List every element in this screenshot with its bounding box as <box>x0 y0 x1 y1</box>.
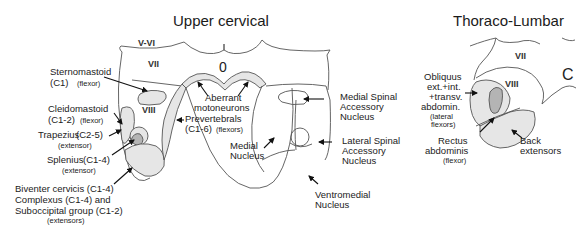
ventromedial-boundary <box>262 150 295 160</box>
arrow-ventromedial <box>309 176 318 184</box>
central-canal-icon: C <box>562 66 574 83</box>
label-medial-nucleus: Medial Nucleus <box>230 140 265 161</box>
svg-text:Trapezius: Trapezius <box>38 129 80 140</box>
svg-text:Nucleus: Nucleus <box>340 111 375 122</box>
svg-text:(C1-4): (C1-4) <box>83 154 110 165</box>
arrow-biventer <box>114 168 132 184</box>
svg-text:(flexor): (flexor) <box>443 156 467 165</box>
thoraco-lumbar-outline-top <box>470 38 575 46</box>
svg-text:(C1-6): (C1-6) <box>185 123 212 134</box>
label-back-extensors: Back extensors <box>520 135 561 156</box>
svg-text:Nucleus: Nucleus <box>230 150 265 161</box>
arrow-sternomastoid <box>104 77 147 91</box>
lamina-label-viii: VIII <box>142 105 156 115</box>
svg-text:(C2-5): (C2-5) <box>76 129 103 140</box>
lamina-boundary-right <box>266 84 330 160</box>
svg-text:Splenius: Splenius <box>47 154 84 165</box>
spinal-cord-motor-pool-diagram: Upper cervical V-VI VII VIII 0 <box>0 0 583 228</box>
svg-text:(flexor): (flexor) <box>80 116 104 125</box>
svg-text:(extensors): (extensors) <box>47 216 85 225</box>
label-obliquus: Obliquus ext.+int. +transv. abdomin. (la… <box>421 71 462 129</box>
svg-text:Cleidomastoid: Cleidomastoid <box>48 103 108 114</box>
label-medial-spinal-accessory-nucleus: Medial Spinal Accessory Nucleus <box>340 91 397 122</box>
svg-text:Sternomastoid: Sternomastoid <box>50 66 111 77</box>
arrow-medial-nucleus <box>264 138 274 148</box>
lamina-label-v-vi: V-VI <box>138 38 155 48</box>
panel-title-upper-cervical: Upper cervical <box>173 12 269 29</box>
svg-text:flexors): flexors) <box>431 120 456 129</box>
lamina-label-vii: VII <box>515 51 526 61</box>
label-aberrant-motoneurons: Aberrant motoneurons <box>194 92 250 113</box>
svg-text:Biventer cervicis (C1-4): Biventer cervicis (C1-4) <box>15 183 114 194</box>
label-splenius: Splenius (C1-4) (extensor) <box>47 154 110 175</box>
label-cleidomastoid: Cleidomastoid (C1-2) (flexor) <box>48 103 108 125</box>
upper-cervical-panel: Upper cervical V-VI VII VIII 0 <box>15 12 400 225</box>
lateral-edge <box>542 86 576 104</box>
svg-text:(flexor): (flexor) <box>77 79 101 88</box>
label-biventer-complexus-suboccipital: Biventer cervicis (C1-4) Complexus (C1-4… <box>15 183 123 225</box>
svg-text:Nucleus: Nucleus <box>342 155 377 166</box>
svg-text:Complexus (C1-4) and: Complexus (C1-4) and <box>15 194 111 205</box>
svg-text:motoneurons: motoneurons <box>194 102 250 113</box>
svg-text:Suboccipital group (C1-2): Suboccipital group (C1-2) <box>15 205 123 216</box>
panel-title-thoraco-lumbar: Thoraco-Lumbar <box>453 12 564 29</box>
lamina-label-viii: VIII <box>505 79 519 89</box>
lamina-boundary-left <box>132 80 182 86</box>
svg-text:(C1): (C1) <box>50 77 68 88</box>
thoraco-lumbar-outline-left <box>474 38 496 80</box>
svg-text:Nucleus: Nucleus <box>315 199 350 210</box>
arrow-trapezius <box>109 130 121 136</box>
svg-text:(extensor): (extensor) <box>58 141 92 150</box>
label-trapezius: Trapezius (C2-5) (extensor) <box>38 129 103 150</box>
svg-text:extensors: extensors <box>520 145 561 156</box>
label-lateral-spinal-accessory-nucleus: Lateral Spinal Accessory Nucleus <box>342 135 400 166</box>
lamina-label-vii: VII <box>148 59 159 69</box>
svg-text:(C1-2): (C1-2) <box>48 114 75 125</box>
label-sternomastoid: Sternomastoid (C1) (flexor) <box>50 66 111 88</box>
label-rectus-abdominis: Rectus abdominis (flexor) <box>425 135 469 165</box>
central-canal-icon: 0 <box>219 59 227 75</box>
svg-text:abdominis: abdominis <box>425 145 469 156</box>
svg-text:(flexors): (flexors) <box>216 125 244 134</box>
sternomastoid-pool <box>138 90 166 105</box>
label-prevertebrals: Prevertebrals (C1-6) (flexors) <box>185 113 244 134</box>
lateral-spinal-accessory-nucleus <box>291 128 309 146</box>
thoraco-lumbar-panel: Thoraco-Lumbar C VII VIII Obliquus ext.+… <box>421 12 576 165</box>
svg-text:abdomin.: abdomin. <box>421 101 460 112</box>
lateral-boundary <box>295 100 296 150</box>
label-ventromedial-nucleus: Ventromedial Nucleus <box>315 189 370 210</box>
svg-text:(extensor): (extensor) <box>62 166 96 175</box>
